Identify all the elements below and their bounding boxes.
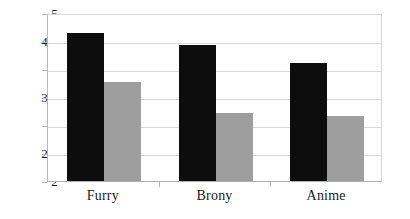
- bar-anime-series-1: [290, 63, 327, 181]
- bar-furry-series-1: [67, 33, 104, 181]
- x-axis-tick-mark: [270, 182, 271, 187]
- x-axis-tick-label-furry: Furry: [47, 189, 159, 203]
- bar-anime-series-2: [327, 116, 364, 182]
- plot-area: [47, 14, 382, 182]
- bar-chart: 22.533.544.55 FurryBronyAnime: [0, 0, 410, 219]
- bar-brony-series-1: [179, 45, 216, 181]
- x-axis-tick-label-brony: Brony: [159, 189, 271, 203]
- bar-furry-series-2: [104, 82, 141, 181]
- bar-brony-series-2: [216, 113, 253, 181]
- x-axis-tick-mark: [159, 182, 160, 187]
- x-axis-tick-label-anime: Anime: [270, 189, 382, 203]
- y-axis-tick-mark: [42, 182, 47, 183]
